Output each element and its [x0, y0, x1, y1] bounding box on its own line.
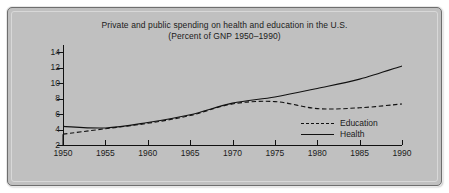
legend-label-health: Health: [340, 129, 365, 139]
legend-item-education: Education: [301, 118, 406, 129]
legend-key-health: [301, 134, 334, 135]
chart-legend: EducationHealth: [301, 118, 406, 140]
legend-label-education: Education: [340, 118, 378, 128]
plot-area: 2468101214 19501955196019651970197519801…: [8, 8, 443, 187]
series-lines: [8, 8, 443, 187]
legend-item-health: Health: [301, 129, 406, 140]
chart-figure: Private and public spending on health an…: [7, 7, 442, 186]
legend-key-education: [301, 123, 334, 124]
